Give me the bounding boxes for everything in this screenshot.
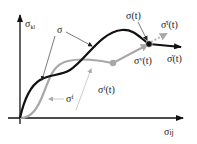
sigma-f-t-label: σf(t) xyxy=(98,85,115,95)
sigma-dot-label: σ̇(t) xyxy=(167,54,182,64)
sigma-f-label: σf xyxy=(66,94,73,104)
sigma-f-dot-arrow xyxy=(151,34,166,42)
sigma-f-dot-label: σ̇f(t) xyxy=(161,20,178,30)
y-axis-label: σkl xyxy=(25,19,35,30)
sigma-dot-arrow xyxy=(149,44,181,47)
sigma-label: σ xyxy=(57,25,62,35)
sigma-v-t-label: σv(t) xyxy=(134,56,152,66)
sigma-f-point xyxy=(110,60,116,66)
x-axis-label: σij xyxy=(164,127,174,137)
sigma-t-label: σ(t) xyxy=(126,11,141,21)
sigma-leader xyxy=(66,32,92,46)
sigma-t-point xyxy=(146,41,153,48)
sigma-f-t-leader xyxy=(76,69,91,110)
